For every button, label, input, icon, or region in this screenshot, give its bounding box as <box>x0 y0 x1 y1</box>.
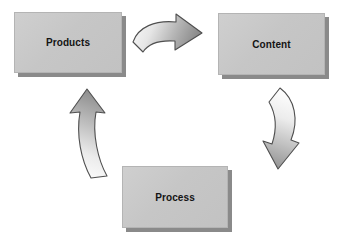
node-products[interactable]: Products <box>14 12 122 73</box>
node-products-label: Products <box>46 37 90 48</box>
arrow-products-to-content <box>133 14 202 52</box>
arrow-process-to-products <box>70 89 107 178</box>
node-process[interactable]: Process <box>122 166 228 228</box>
node-process-label: Process <box>155 192 195 203</box>
diagram-canvas: Products Content Process <box>0 0 345 243</box>
node-content[interactable]: Content <box>218 13 325 75</box>
arrow-content-to-process <box>263 88 299 169</box>
node-content-label: Content <box>252 39 290 50</box>
